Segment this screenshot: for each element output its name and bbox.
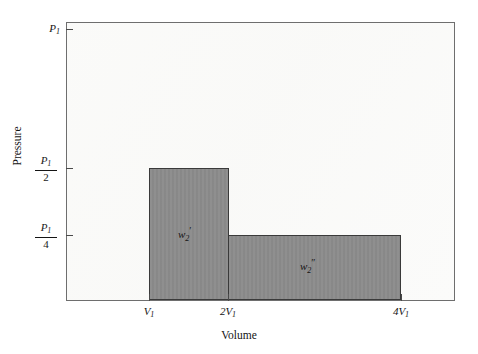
fraction-numerator: P1 xyxy=(32,222,60,237)
fraction-numerator: P1 xyxy=(32,155,60,170)
fraction-denominator: 4 xyxy=(32,239,60,251)
x-axis-title: Volume xyxy=(0,329,478,341)
p1-sub: 1 xyxy=(56,27,60,36)
y-axis-title: Pressure xyxy=(11,101,23,191)
x-tick-2v1 xyxy=(228,294,229,301)
v-sub: 1 xyxy=(232,310,236,319)
x-tick-label-v1: V1 xyxy=(129,305,169,319)
v-sub: 1 xyxy=(150,310,154,319)
y-tick-p1-over-2 xyxy=(66,168,73,169)
frac-var-sub: 1 xyxy=(47,159,51,168)
y-tick-label-p1: P1 xyxy=(32,22,60,36)
v-sub: 1 xyxy=(405,310,409,319)
y-tick-p1-over-4 xyxy=(66,235,73,236)
fraction-denominator: 2 xyxy=(32,172,60,184)
pressure-volume-chart: w2′ w2″ P1 P1 2 P1 4 V1 2V1 4V1 Volume P… xyxy=(0,0,478,354)
prime-double: ″ xyxy=(311,257,316,268)
x-tick-4v1 xyxy=(401,294,402,301)
frac-var-sub: 1 xyxy=(47,226,51,235)
p1-var: P xyxy=(49,22,56,34)
x-tick-v1 xyxy=(149,294,150,301)
x-tick-label-4v1: 4V1 xyxy=(381,305,421,319)
plot-area xyxy=(67,23,454,300)
bar-label-w2-double-prime: w2″ xyxy=(300,258,316,275)
x-tick-label-2v1: 2V1 xyxy=(208,305,248,319)
bar-label-w2-prime: w2′ xyxy=(178,226,192,243)
prime-single: ′ xyxy=(189,225,192,236)
y-tick-label-p1-over-2: P1 2 xyxy=(32,155,60,183)
y-tick-p1 xyxy=(66,29,73,30)
y-tick-label-p1-over-4: P1 4 xyxy=(32,222,60,250)
